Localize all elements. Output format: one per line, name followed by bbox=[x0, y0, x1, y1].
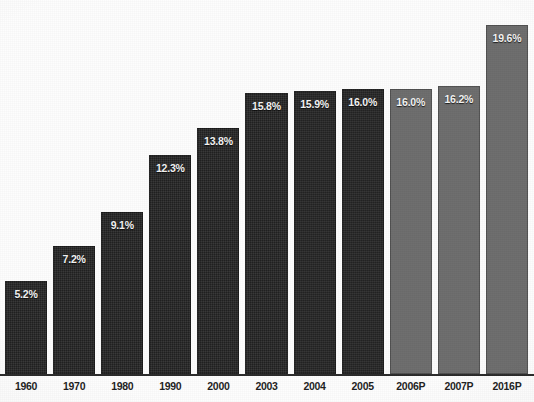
x-tick-1960: 1960 bbox=[5, 380, 47, 392]
bar-2000[interactable]: 13.8% bbox=[197, 128, 239, 374]
bar-slot: 13.8% bbox=[197, 0, 239, 374]
bar-value-label: 15.8% bbox=[245, 100, 287, 112]
bar-value-label: 19.6% bbox=[486, 32, 528, 44]
bar-2003[interactable]: 15.8% bbox=[245, 93, 287, 374]
bar-slot: 12.3% bbox=[149, 0, 191, 374]
bar-value-label: 16.2% bbox=[438, 93, 480, 105]
bar-value-label: 7.2% bbox=[53, 253, 95, 265]
plot-area: 5.2%7.2%9.1%12.3%13.8%15.8%15.9%16.0%16.… bbox=[0, 0, 534, 374]
bar-chart: 5.2%7.2%9.1%12.3%13.8%15.8%15.9%16.0%16.… bbox=[0, 0, 534, 402]
bar-slot: 16.2% bbox=[438, 0, 480, 374]
x-tick-2007P: 2007P bbox=[438, 380, 480, 392]
x-tick-1980: 1980 bbox=[101, 380, 143, 392]
x-axis-tick-labels: 196019701980199020002003200420052006P200… bbox=[0, 378, 534, 402]
x-tick-1970: 1970 bbox=[53, 380, 95, 392]
bar-value-label: 16.0% bbox=[390, 96, 432, 108]
x-axis-line bbox=[0, 374, 534, 376]
x-tick-2004: 2004 bbox=[294, 380, 336, 392]
x-tick-2000: 2000 bbox=[197, 380, 239, 392]
bar-slot: 19.6% bbox=[486, 0, 528, 374]
bar-1970[interactable]: 7.2% bbox=[53, 246, 95, 374]
x-tick-2016P: 2016P bbox=[486, 380, 528, 392]
bar-1980[interactable]: 9.1% bbox=[101, 212, 143, 374]
bar-slot: 16.0% bbox=[390, 0, 432, 374]
bar-value-label: 15.9% bbox=[294, 98, 336, 110]
bar-value-label: 5.2% bbox=[5, 288, 47, 300]
bar-slot: 5.2% bbox=[5, 0, 47, 374]
bar-1960[interactable]: 5.2% bbox=[5, 281, 47, 374]
bar-2004[interactable]: 15.9% bbox=[294, 91, 336, 374]
bar-2016P[interactable]: 19.6% bbox=[486, 25, 528, 374]
bar-slot: 7.2% bbox=[53, 0, 95, 374]
bar-slot: 16.0% bbox=[342, 0, 384, 374]
x-tick-1990: 1990 bbox=[149, 380, 191, 392]
bar-slot: 9.1% bbox=[101, 0, 143, 374]
bar-2007P[interactable]: 16.2% bbox=[438, 86, 480, 375]
bar-1990[interactable]: 12.3% bbox=[149, 155, 191, 374]
bar-value-label: 16.0% bbox=[342, 96, 384, 108]
bar-2006P[interactable]: 16.0% bbox=[390, 89, 432, 374]
bar-2005[interactable]: 16.0% bbox=[342, 89, 384, 374]
x-tick-2005: 2005 bbox=[342, 380, 384, 392]
x-tick-2006P: 2006P bbox=[390, 380, 432, 392]
bar-value-label: 13.8% bbox=[197, 135, 239, 147]
bar-value-label: 12.3% bbox=[149, 162, 191, 174]
bar-slot: 15.9% bbox=[294, 0, 336, 374]
bar-value-label: 9.1% bbox=[101, 219, 143, 231]
bar-slot: 15.8% bbox=[245, 0, 287, 374]
x-tick-2003: 2003 bbox=[245, 380, 287, 392]
